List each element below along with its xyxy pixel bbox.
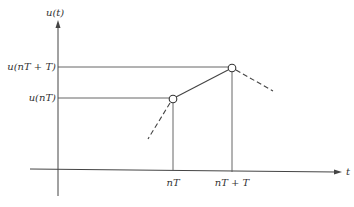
y-axis-arrow-icon: [56, 20, 61, 28]
x-tick-nT: nT: [166, 177, 180, 188]
x-axis-label: t: [346, 166, 351, 177]
dashed-extension-right: [236, 70, 273, 91]
dashed-extension-left: [148, 103, 170, 139]
interpolation-segment: [176, 70, 228, 97]
y-tick-u-nT: u(nT): [29, 92, 56, 103]
x-axis-arrow-icon: [334, 170, 342, 175]
y-tick-u-nT-plus-T: u(nT + T): [7, 61, 56, 72]
sample-point-nT: [169, 95, 177, 103]
sampled-signal-diagram: u(t) t u(nT + T) u(nT) nT nT + T: [0, 0, 354, 207]
x-tick-nT-plus-T: nT + T: [215, 177, 251, 188]
x-axis: [30, 169, 336, 172]
y-axis-label: u(t): [46, 7, 64, 18]
sample-point-nT-plus-T: [228, 64, 236, 72]
